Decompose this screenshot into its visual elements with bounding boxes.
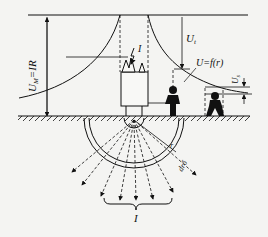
equipment-box — [121, 72, 148, 106]
ground-potential-diagram: UM=IR I Ut U=f(r) Us r drδ I — [0, 0, 268, 237]
current-label-bottom: I — [133, 212, 139, 224]
current-brace — [104, 198, 172, 210]
ground-voltage-label: UM=IR — [26, 60, 40, 92]
step-voltage-label: Us — [230, 75, 241, 85]
person-step-icon — [206, 92, 224, 116]
person-touch-icon — [165, 86, 180, 116]
shell-label: drδ — [176, 159, 189, 173]
potential-function-label: U=f(r) — [196, 57, 224, 69]
touch-voltage-label: Ut — [186, 32, 197, 46]
current-label-top: I — [137, 43, 142, 54]
